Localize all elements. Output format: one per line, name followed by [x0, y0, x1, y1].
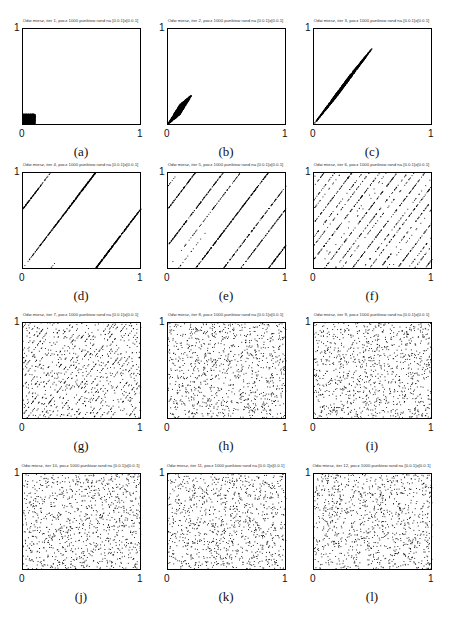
data-point	[62, 390, 63, 391]
data-point	[178, 417, 179, 418]
data-point	[259, 183, 260, 184]
data-point	[197, 206, 198, 207]
data-point	[59, 494, 60, 495]
data-point	[355, 264, 356, 265]
data-point	[326, 243, 327, 244]
data-point	[23, 485, 24, 486]
data-point	[323, 375, 324, 376]
x-tick-min: 0	[164, 573, 170, 584]
data-point	[83, 417, 84, 418]
data-point	[214, 477, 215, 478]
data-point	[51, 547, 52, 548]
data-point	[348, 200, 349, 201]
data-point	[382, 331, 383, 332]
data-point	[392, 368, 393, 369]
data-point	[34, 335, 35, 336]
data-point	[285, 556, 286, 557]
data-point	[214, 332, 215, 333]
data-point	[195, 352, 196, 353]
data-point	[244, 400, 245, 401]
data-point	[255, 404, 256, 405]
data-point	[135, 216, 136, 217]
data-point	[415, 355, 416, 356]
data-point	[28, 388, 29, 389]
data-point	[28, 537, 29, 538]
panel-h: Odw miesz, iter 8, pocz 1000 punktow ran…	[153, 308, 298, 458]
data-point	[110, 544, 111, 545]
data-point	[327, 204, 328, 205]
data-point	[109, 506, 110, 507]
data-point	[176, 509, 177, 510]
data-point	[402, 353, 403, 354]
data-point	[315, 176, 316, 177]
data-point	[255, 522, 256, 523]
data-point	[342, 267, 343, 268]
data-point	[420, 362, 421, 363]
data-point	[323, 406, 324, 407]
data-point	[264, 520, 265, 521]
data-point	[136, 549, 137, 550]
data-point	[86, 325, 87, 326]
data-point	[235, 359, 236, 360]
data-point	[422, 374, 423, 375]
data-point	[335, 97, 336, 98]
data-point	[226, 371, 227, 372]
data-point	[375, 251, 376, 252]
data-point	[130, 494, 131, 495]
data-point	[401, 412, 402, 413]
data-point	[396, 174, 397, 175]
data-point	[253, 545, 254, 546]
data-point	[132, 520, 133, 521]
data-point	[410, 338, 411, 339]
data-point	[373, 360, 374, 361]
data-point	[87, 536, 88, 537]
data-point	[174, 542, 175, 543]
data-point	[201, 540, 202, 541]
data-point	[117, 548, 118, 549]
data-point	[405, 345, 406, 346]
data-point	[123, 507, 124, 508]
data-point	[140, 569, 141, 570]
data-point	[372, 341, 373, 342]
data-point	[358, 487, 359, 488]
data-point	[403, 368, 404, 369]
data-point	[364, 325, 365, 326]
data-point	[282, 250, 283, 251]
data-point	[367, 536, 368, 537]
data-point	[208, 544, 209, 545]
data-point	[267, 543, 268, 544]
data-point	[378, 550, 379, 551]
data-point	[37, 551, 38, 552]
data-point	[274, 543, 275, 544]
data-point	[429, 249, 430, 250]
data-point	[350, 546, 351, 547]
data-point	[322, 474, 323, 475]
data-point	[366, 176, 367, 177]
data-point	[322, 196, 323, 197]
data-point	[263, 531, 264, 532]
data-point	[213, 370, 214, 371]
data-point	[324, 352, 325, 353]
data-point	[127, 479, 128, 480]
data-point	[247, 550, 248, 551]
data-point	[390, 415, 391, 416]
data-point	[50, 372, 51, 373]
data-point	[76, 366, 77, 367]
data-point	[168, 185, 169, 186]
data-point	[418, 324, 419, 325]
data-point	[336, 388, 337, 389]
data-point	[367, 233, 368, 234]
data-point	[429, 404, 430, 405]
data-point	[417, 242, 418, 243]
data-point	[409, 559, 410, 560]
data-point	[427, 568, 428, 569]
data-point	[337, 474, 338, 475]
data-point	[243, 562, 244, 563]
data-point	[209, 542, 210, 543]
data-point	[406, 256, 407, 257]
data-point	[421, 415, 422, 416]
data-point	[104, 500, 105, 501]
data-point	[32, 551, 33, 552]
data-point	[406, 327, 407, 328]
data-point	[56, 519, 57, 520]
